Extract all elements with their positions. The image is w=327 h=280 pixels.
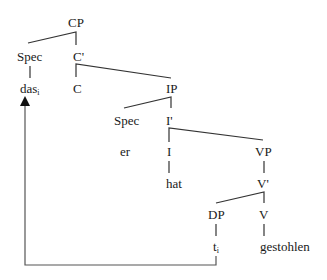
syntax-tree-diagram: CP Spec C' dasi C IP Spec I' er I VP hat… (0, 0, 327, 280)
node-v: V (259, 208, 268, 221)
node-cp: CP (68, 16, 84, 29)
node-spec-c: Spec (17, 50, 42, 63)
tree-branches (0, 0, 327, 280)
node-dp: DP (208, 208, 225, 221)
node-hat: hat (166, 177, 182, 190)
node-vp: VP (255, 145, 272, 158)
node-c-bar: C' (73, 50, 84, 63)
node-c: C (73, 82, 82, 95)
node-trace: ti (213, 240, 219, 257)
node-i-bar: I' (166, 114, 173, 127)
node-ip: IP (166, 82, 178, 95)
node-spec-i: Spec (114, 114, 139, 127)
node-er: er (120, 145, 130, 158)
node-gestohlen: gestohlen (260, 240, 310, 253)
node-das: dasi (20, 82, 40, 99)
node-i: I (167, 145, 171, 158)
node-v-bar: V' (257, 177, 269, 190)
